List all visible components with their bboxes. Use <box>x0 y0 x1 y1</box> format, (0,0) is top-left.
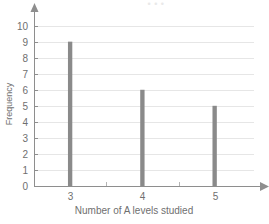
frequency-bar-chart: • • • 012345678910 345 Number of A level… <box>0 0 269 224</box>
x-tick-label-3: 3 <box>68 191 74 202</box>
x-axis-arrow-icon <box>260 182 269 191</box>
bar-3 <box>68 42 72 186</box>
y-tick-label-4: 4 <box>22 117 28 128</box>
y-tick-label-0: 0 <box>22 181 28 192</box>
bars-group <box>68 42 217 186</box>
y-tick-label-6: 6 <box>22 85 28 96</box>
x-tick-label-5: 5 <box>213 191 219 202</box>
bar-4 <box>140 90 144 186</box>
y-tick-label-10: 10 <box>17 21 29 32</box>
y-tick-labels-group: 012345678910 <box>17 21 29 192</box>
y-tick-label-2: 2 <box>22 149 28 160</box>
y-tick-label-5: 5 <box>22 101 28 112</box>
y-axis-title: Frequency <box>4 82 14 125</box>
y-tick-label-8: 8 <box>22 53 28 64</box>
chart-canvas: 012345678910 345 Number of A levels stud… <box>0 0 269 224</box>
y-axis-arrow-icon <box>31 3 39 12</box>
bar-5 <box>212 106 216 186</box>
x-tick-label-4: 4 <box>140 191 146 202</box>
x-tick-labels-group: 345 <box>68 191 219 202</box>
y-tick-label-7: 7 <box>22 69 28 80</box>
y-tick-label-1: 1 <box>22 165 28 176</box>
y-tick-label-3: 3 <box>22 133 28 144</box>
y-tick-label-9: 9 <box>22 37 28 48</box>
x-axis-title: Number of A levels studied <box>75 205 193 216</box>
